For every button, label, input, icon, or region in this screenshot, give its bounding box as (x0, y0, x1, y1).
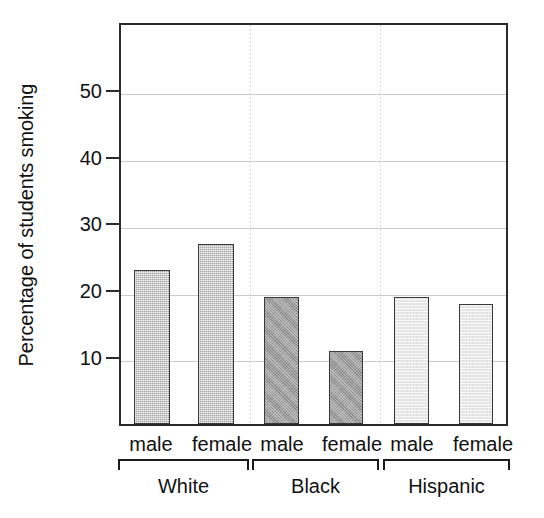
gridline-20 (121, 161, 506, 162)
group-label-hispanic: Hispanic (383, 476, 510, 496)
group-label-white: White (118, 476, 249, 496)
y-tick-label-50: 50 (56, 81, 102, 101)
bar-chart-figure: Percentage of students smoking 50 40 30 … (0, 0, 544, 518)
y-tick-mark-10 (106, 357, 119, 359)
group-separator-black-hispanic (380, 25, 381, 424)
y-tick-mark-40 (106, 157, 119, 159)
y-tick-label-40: 40 (56, 148, 102, 168)
gridline-50 (121, 361, 506, 362)
gridline-10 (121, 94, 506, 95)
gridline-40 (121, 295, 506, 296)
plot-area (119, 23, 508, 426)
bar-white-female (198, 244, 234, 424)
group-bracket-white (118, 459, 249, 470)
y-axis-title: Percentage of students smoking (15, 60, 41, 390)
group-bracket-hispanic (383, 459, 510, 470)
group-bracket-black (252, 459, 379, 470)
y-tick-label-30: 30 (56, 214, 102, 234)
bar-black-male (264, 297, 299, 424)
bar-black-female (329, 351, 363, 424)
y-tick-mark-20 (106, 290, 119, 292)
gridline-30 (121, 228, 506, 229)
x-label-hispanic-female: female (441, 434, 525, 454)
bar-hispanic-male (394, 297, 429, 424)
bar-white-male (134, 270, 170, 424)
y-tick-mark-30 (106, 223, 119, 225)
x-label-hispanic-male: male (381, 434, 443, 454)
y-tick-mark-50 (106, 90, 119, 92)
group-separator-white-black (250, 25, 251, 424)
y-tick-label-20: 20 (56, 281, 102, 301)
x-label-white-male: male (120, 434, 182, 454)
y-tick-label-10: 10 (56, 348, 102, 368)
bar-hispanic-female (459, 304, 493, 424)
group-label-black: Black (252, 476, 379, 496)
x-label-black-male: male (251, 434, 313, 454)
